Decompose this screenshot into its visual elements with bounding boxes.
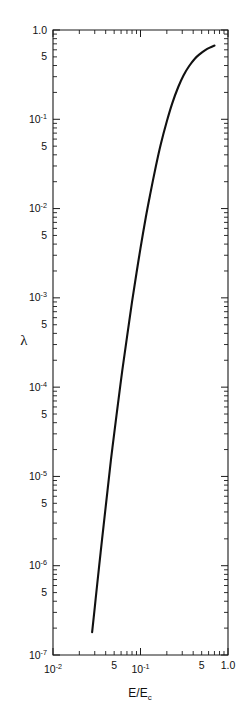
x-tick-label: 5 <box>111 659 117 671</box>
y-tick-label: 10-4 <box>29 380 47 393</box>
x-tick-label: 10-2 <box>44 662 62 675</box>
y-tick-label: 5 <box>41 497 47 509</box>
y-tick-label: 10-7 <box>29 648 47 661</box>
x-axis-title: E/Ec <box>128 686 151 702</box>
y-axis-title: λ <box>20 332 28 348</box>
y-tick-label: 10-6 <box>29 558 47 571</box>
y-tick-label: 5 <box>41 586 47 598</box>
x-tick-label: 10-1 <box>131 662 149 675</box>
y-tick-label: 5 <box>41 140 47 152</box>
y-tick-label: 5 <box>41 408 47 420</box>
y-tick-label: 10-1 <box>29 112 47 125</box>
data-series-group <box>92 46 214 633</box>
y-tick-label: 10-3 <box>29 290 47 303</box>
figure-container: 1.0510-1510-2510-3510-4510-5510-6510-7 1… <box>0 0 250 711</box>
x-axis-title-main: E/E <box>128 686 147 700</box>
x-axis-tick-labels: 10-2510-151.0 <box>44 659 235 675</box>
y-tick-label: 10-5 <box>29 469 47 482</box>
y-axis-tick-labels: 1.0510-1510-2510-3510-4510-5510-6510-7 <box>29 24 47 661</box>
x-axis-ticks <box>53 30 228 655</box>
y-tick-label: 5 <box>41 229 47 241</box>
plot-frame <box>53 30 228 655</box>
x-tick-label: 5 <box>199 659 205 671</box>
y-tick-label: 1.0 <box>32 24 47 36</box>
x-axis-title-subscript: c <box>148 693 152 702</box>
y-tick-label: 10-2 <box>29 201 47 214</box>
y-axis-ticks <box>53 30 228 655</box>
data-curve <box>92 46 214 633</box>
y-tick-label: 5 <box>41 318 47 330</box>
x-tick-label: 1.0 <box>221 659 236 671</box>
y-tick-label: 5 <box>41 50 47 62</box>
log-log-plot: 1.0510-1510-2510-3510-4510-5510-6510-7 1… <box>0 0 250 711</box>
